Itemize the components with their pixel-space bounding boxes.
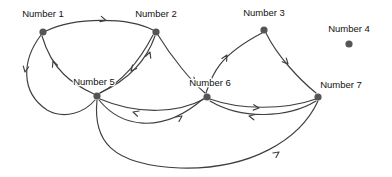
graph-node-n6[interactable] xyxy=(203,93,210,100)
edge-n6-to-n5 xyxy=(100,99,204,116)
graph-svg: Number 1Number 2Number 3Number 4Number 5… xyxy=(0,0,392,177)
edge-path xyxy=(99,99,203,123)
node-label-n7: Number 7 xyxy=(320,79,362,90)
node-label-n6: Number 6 xyxy=(189,77,231,88)
arrow-head-icon xyxy=(146,52,151,58)
edge-n5-to-n6 xyxy=(99,99,203,123)
edge-n5-to-n7 xyxy=(96,100,318,168)
arrow-head-icon xyxy=(273,152,279,157)
nodes-layer xyxy=(39,26,352,100)
edges-layer xyxy=(23,16,318,168)
edge-path xyxy=(27,35,95,115)
graph-node-n1[interactable] xyxy=(39,28,46,35)
edge-path xyxy=(210,99,316,107)
arrow-head-icon xyxy=(176,116,182,121)
edge-n3-to-n7 xyxy=(266,33,316,93)
edge-path xyxy=(100,99,204,110)
graph-node-n7[interactable] xyxy=(314,93,321,100)
graph-node-n2[interactable] xyxy=(152,28,159,35)
node-label-n4: Number 4 xyxy=(328,23,370,34)
arrow-head-icon xyxy=(249,115,255,120)
graph-diagram-canvas: Number 1Number 2Number 3Number 4Number 5… xyxy=(0,0,392,177)
graph-node-n3[interactable] xyxy=(260,26,267,33)
labels-layer: Number 1Number 2Number 3Number 4Number 5… xyxy=(22,7,370,90)
graph-node-n5[interactable] xyxy=(93,92,100,99)
node-label-n3: Number 3 xyxy=(243,7,285,18)
edge-path xyxy=(96,100,318,168)
edge-path xyxy=(266,33,316,93)
graph-node-n4[interactable] xyxy=(345,40,352,47)
node-label-n2: Number 2 xyxy=(135,8,177,19)
node-label-n1: Number 1 xyxy=(22,8,64,19)
arrow-head-icon xyxy=(133,111,139,116)
node-label-n5: Number 5 xyxy=(73,76,115,87)
edge-n1-to-n5 xyxy=(23,35,95,115)
arrow-head-icon xyxy=(23,66,28,72)
